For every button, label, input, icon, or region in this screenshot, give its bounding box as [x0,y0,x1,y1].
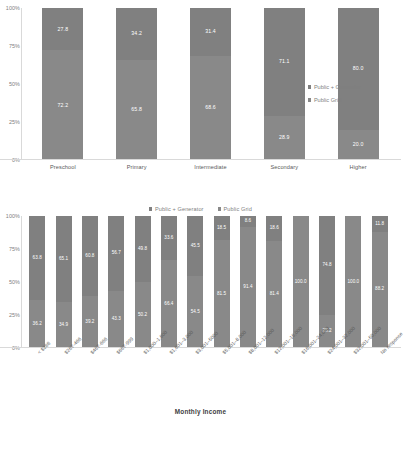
bar-segment-public-generator: 60.8 [82,216,98,296]
bar-value-label: 43.3 [112,317,121,322]
bottom-bars: 63.836.265.134.960.839.256.743.349.850.2… [22,216,401,348]
x-axis-label-slot: $667-999 [108,348,124,406]
bar-segment-public-generator: 71.1 [264,8,305,116]
bar-segment-public-grid: 68.6 [190,56,231,160]
bar-267-466: 65.134.9 [56,216,72,348]
bar-segment-public-grid: 72.2 [42,50,83,160]
bottom-y-axis: 100%75%50%25%0% [0,216,22,348]
bar-value-label: 54.5 [191,310,200,315]
bar-value-label: 45.5 [191,244,200,249]
y-axis-tick: 75% [9,246,20,252]
legend-swatch-public-grid [308,98,311,101]
bar-value-label: 65.8 [131,107,142,112]
legend-label-public-grid: Public Grid [223,206,251,212]
bar-value-label: 34.2 [131,31,142,36]
x-axis-label-slot: $8,001–12,000 [240,348,256,406]
x-axis-label-slot: $1,601–3,000 [161,348,177,406]
x-axis-label: Primary [113,164,161,170]
bar-1-000-1-600: 49.850.2 [135,216,151,348]
bar-segment-public-generator: 74.8 [319,216,335,315]
x-axis-label-slot: $32,001–50,000 [345,348,361,406]
bar-value-label: 100.0 [347,280,359,285]
bar-segment-public-generator: 56.7 [108,216,124,291]
bar-segment-public-grid: 20.0 [338,130,379,160]
top-y-axis: 100%75%50%25%0% [0,8,22,160]
bar-value-label: 63.8 [33,256,42,261]
y-axis-tick: 50% [9,81,20,87]
bar-segment-public-generator: 18.6 [266,216,282,241]
legend-label-public-generator: Public + Generator [155,206,204,212]
bar-value-label: 66.4 [164,302,173,307]
bar-value-label: 72.2 [58,103,69,108]
x-axis-label-slot: $12,001–16,000 [266,348,282,406]
bar-value-label: 34.9 [59,323,68,328]
bar-segment-public-grid: 50.2 [135,282,151,348]
bar-value-label: 49.8 [138,247,147,252]
bar-preschool: 27.872.2 [42,8,83,160]
legend-swatch-public-generator [308,85,311,88]
legend-item-public-generator-bottom: Public + Generator [149,206,204,212]
legend-label-public-generator: Public + Generator [314,84,361,90]
bar-segment-public-generator: 80.0 [338,8,379,130]
bar-segment-public-grid: 36.2 [29,300,45,348]
bar-value-label: 80.0 [353,66,364,71]
legend-label-public-grid: Public Grid [314,97,341,103]
x-axis-label-slot: $16,001–24,000 [293,348,309,406]
bar-value-label: 68.6 [205,105,216,110]
bar-segment-public-grid: 39.2 [82,296,98,348]
bar-value-label: 100.0 [295,280,307,285]
legend-swatch-public-generator [149,207,152,210]
bar-segment-public-generator: 8.6 [240,216,256,227]
bar-value-label: 11.8 [375,222,384,227]
y-axis-tick: 75% [9,43,20,49]
legend-item-public-grid-bottom: Public Grid [218,206,252,212]
bar-segment-public-generator: 34.2 [116,8,157,60]
x-axis-label-slot: $1,000–1,600 [135,348,151,406]
bar-value-label: 27.8 [58,27,69,32]
top-x-labels: PreschoolPrimaryIntermediateSecondaryHig… [0,160,401,170]
bar-value-label: 81.4 [270,292,279,297]
bottom-axis-title: Monthly Income [0,406,401,415]
x-axis-label-slot: $467-666 [82,348,98,406]
bar-segment-public-generator: 31.4 [190,8,231,56]
y-axis-tick: 25% [9,312,20,318]
bar-secondary: 71.128.9 [264,8,305,160]
bar-value-label: 33.6 [164,236,173,241]
bar-266: 63.836.2 [29,216,45,348]
bar-value-label: 65.1 [59,257,68,262]
bottom-legend: Public + Generator Public Grid [0,200,401,216]
bar-5-001-8-000: 18.581.5 [214,216,230,348]
bar-value-label: 39.2 [85,320,94,325]
x-axis-label-slot: $24,001–32,000 [319,348,335,406]
y-axis-tick: 100% [6,213,20,219]
bar-value-label: 71.1 [279,59,290,64]
education-level-chart: 100%75%50%25%0% 27.872.234.265.831.468.6… [0,0,401,200]
bar-value-label: 31.4 [205,29,216,34]
legend-swatch-public-grid [218,207,221,210]
monthly-income-chart: Public + Generator Public Grid 100%75%50… [0,200,401,455]
bar-667-999: 56.743.3 [108,216,124,348]
bar-segment-public-grid: 34.9 [56,302,72,348]
bar-value-label: 18.6 [270,226,279,231]
bar-intermediate: 31.468.6 [190,8,231,160]
bar-value-label: 88.2 [375,287,384,292]
y-axis-tick: 100% [6,5,20,11]
bar-value-label: 18.5 [217,226,226,231]
x-axis-label: Higher [334,164,382,170]
bar-segment-public-generator: 11.8 [372,216,388,232]
x-axis-label-slot: < $266 [29,348,45,406]
bar-value-label: 91.4 [243,285,252,290]
legend-item-public-grid: Public Grid [308,97,361,103]
legend-item-public-generator: Public + Generator [308,84,361,90]
x-axis-label: Secondary [260,164,308,170]
bar-value-label: 81.5 [217,292,226,297]
bar-value-label: 74.8 [322,263,331,268]
x-axis-label-slot: $267-466 [56,348,72,406]
top-legend: Public + Generator Public Grid [308,84,361,110]
bar-segment-public-grid: 28.9 [264,116,305,160]
bar-segment-public-generator: 27.8 [42,8,83,50]
y-axis-tick: 50% [9,279,20,285]
bar-value-label: 60.8 [85,254,94,259]
bar-primary: 34.265.8 [116,8,157,160]
bar-value-label: 20.0 [353,142,364,147]
